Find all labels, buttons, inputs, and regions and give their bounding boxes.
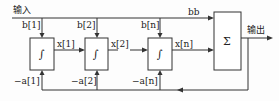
integral-1-symbol: ∫ [39, 48, 45, 61]
a2-label: −a[2] [71, 76, 97, 86]
x1-label: x[1] [57, 39, 75, 49]
an-label: −a[n] [132, 76, 158, 86]
integral-2-symbol: ∫ [93, 48, 99, 61]
output-label: 输出 [247, 24, 265, 35]
b2-label: b[2] [77, 20, 96, 30]
a2-arrow-icon [95, 70, 100, 75]
xn-label: x[n] [175, 39, 193, 49]
xn-minus-1-arrow-icon [142, 48, 148, 53]
b1-label: b[1] [22, 20, 41, 30]
b2-arrow-icon [95, 33, 100, 38]
a1-arrow-icon [40, 70, 45, 75]
diagram-svg: 输入 bb b[1] ∫ x[1] −a[1] b[2] ∫ x[2] −a[2… [0, 0, 279, 101]
block-diagram: 输入 bb b[1] ∫ x[1] −a[1] b[2] ∫ x[2] −a[2… [0, 0, 279, 101]
integral-n-symbol: ∫ [157, 48, 163, 61]
bn-arrow-icon [158, 33, 163, 38]
an-arrow-icon [158, 70, 163, 75]
feedback-arrow-icon [177, 88, 183, 93]
a1-label: −a[1] [14, 76, 40, 86]
bn-label: b[n] [141, 20, 160, 30]
bb-arrow-icon [208, 16, 214, 21]
x1-arrow-icon [79, 48, 85, 53]
output-arrow-icon [267, 36, 273, 41]
xn-arrow-icon [208, 48, 214, 53]
sum-symbol: Σ [223, 35, 231, 48]
bb-label: bb [188, 7, 200, 17]
b1-arrow-icon [40, 33, 45, 38]
x2-label: x[2] [111, 39, 129, 49]
input-label: 输入 [13, 4, 31, 15]
